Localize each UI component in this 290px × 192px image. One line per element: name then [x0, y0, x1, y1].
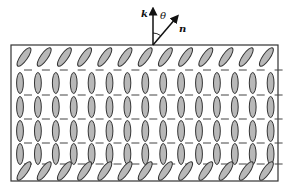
bulk-molecule: [178, 73, 185, 94]
theta-label: θ: [160, 10, 166, 21]
bulk-molecule: [17, 144, 24, 165]
bulk-molecules: [17, 73, 274, 165]
bulk-molecule: [160, 144, 167, 165]
bulk-molecule: [267, 121, 274, 142]
bulk-molecule: [196, 144, 203, 165]
bulk-molecule: [267, 73, 274, 94]
bulk-molecule: [214, 144, 221, 165]
bulk-molecule: [196, 121, 203, 142]
diagram-canvas: k θ n: [0, 0, 290, 192]
bulk-molecule: [178, 144, 185, 165]
bulk-molecule: [124, 121, 131, 142]
surface-molecule: [35, 46, 54, 68]
bulk-molecule: [196, 73, 203, 94]
bulk-molecule: [249, 121, 256, 142]
bulk-molecule: [17, 121, 24, 142]
bulk-molecule: [52, 97, 59, 118]
bulk-molecule: [17, 73, 24, 94]
n-vector-arrow-icon: [153, 18, 176, 45]
liquid-crystal-diagram: k θ n: [0, 0, 290, 192]
bulk-molecule: [249, 97, 256, 118]
bulk-molecule: [17, 97, 24, 118]
bulk-molecule: [178, 97, 185, 118]
bulk-molecule: [267, 144, 274, 165]
surface-molecule: [15, 160, 34, 182]
bulk-molecule: [106, 121, 113, 142]
bulk-molecule: [178, 121, 185, 142]
bulk-molecule: [160, 97, 167, 118]
surface-molecule: [156, 46, 175, 68]
bulk-molecule: [70, 121, 77, 142]
bulk-molecule: [35, 97, 42, 118]
bulk-molecule: [88, 73, 95, 94]
bulk-molecule: [70, 97, 77, 118]
bulk-molecule: [124, 73, 131, 94]
director-vectors: k θ n: [141, 8, 186, 45]
bulk-molecule: [231, 73, 238, 94]
bulk-molecule: [106, 97, 113, 118]
surface-molecule: [237, 46, 256, 68]
n-label: n: [179, 23, 186, 34]
surface-molecule: [257, 160, 276, 182]
bulk-molecule: [160, 73, 167, 94]
surface-molecule: [75, 46, 94, 68]
bulk-molecule: [142, 144, 149, 165]
surface-molecule: [116, 46, 135, 68]
top-surface-molecules: [15, 46, 276, 68]
bulk-molecule: [142, 73, 149, 94]
bulk-molecule: [214, 73, 221, 94]
bulk-molecule: [160, 121, 167, 142]
alignment-dashes: [24, 70, 283, 164]
bulk-molecule: [88, 121, 95, 142]
surface-molecule: [197, 46, 216, 68]
surface-molecule: [237, 160, 256, 182]
surface-molecule: [217, 160, 236, 182]
surface-molecule: [75, 160, 94, 182]
bulk-molecule: [52, 144, 59, 165]
bulk-molecule: [267, 97, 274, 118]
bulk-molecule: [106, 73, 113, 94]
bulk-molecule: [124, 97, 131, 118]
theta-angle-arc: [153, 33, 161, 36]
surface-molecule: [156, 160, 175, 182]
bulk-molecule: [249, 144, 256, 165]
bulk-molecule: [231, 144, 238, 165]
surface-molecule: [257, 46, 276, 68]
surface-molecule: [15, 46, 34, 68]
surface-molecule: [116, 160, 135, 182]
k-label: k: [141, 8, 148, 19]
surface-molecule: [55, 46, 74, 68]
bulk-molecule: [231, 97, 238, 118]
bulk-molecule: [142, 121, 149, 142]
bulk-molecule: [196, 97, 203, 118]
surface-molecule: [96, 160, 115, 182]
bulk-molecule: [88, 97, 95, 118]
bulk-molecule: [70, 144, 77, 165]
bulk-molecule: [52, 121, 59, 142]
bulk-molecule: [142, 97, 149, 118]
bulk-molecule: [88, 144, 95, 165]
bulk-molecule: [249, 73, 256, 94]
bulk-molecule: [231, 121, 238, 142]
surface-molecule: [96, 46, 115, 68]
surface-molecule: [176, 46, 195, 68]
bulk-molecule: [35, 121, 42, 142]
bulk-molecule: [214, 121, 221, 142]
bulk-molecule: [35, 73, 42, 94]
bulk-molecule: [70, 73, 77, 94]
bulk-molecule: [214, 97, 221, 118]
bulk-molecule: [52, 73, 59, 94]
surface-molecule: [136, 46, 155, 68]
surface-molecule: [217, 46, 236, 68]
bulk-molecule: [35, 144, 42, 165]
